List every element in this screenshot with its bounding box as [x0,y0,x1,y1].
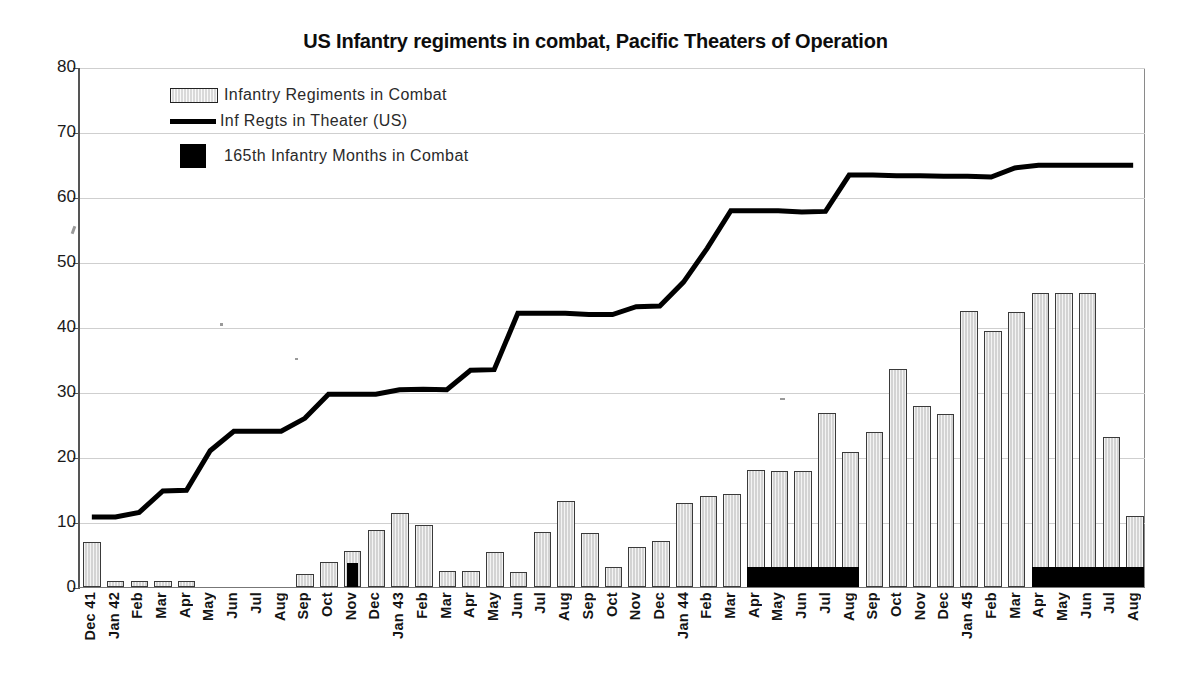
y-tick-label: 20 [30,447,76,467]
x-tick-label: Jun [793,592,809,619]
x-tick-label: Feb [129,592,145,619]
chart-legend: Infantry Regiments in Combat Inf Regts i… [170,82,469,169]
x-tick-label: Jan 43 [390,592,406,639]
x-tick-label: Jan 45 [959,592,975,639]
x-tick-label: Oct [604,592,620,617]
x-tick-label: Sep [864,592,880,620]
x-tick-label: Jul [1101,592,1117,614]
bar-swatch-icon [170,88,218,103]
x-tick-label: Aug [1125,592,1141,621]
x-tick-label: Jun [509,592,525,619]
inf-regts-in-theater-line [92,165,1133,517]
x-tick-label: Jan 44 [675,592,691,639]
x-tick-label: Nov [912,592,928,620]
x-tick-label: Aug [556,592,572,621]
line-swatch-icon [170,119,216,124]
x-tick-label: Sep [295,592,311,620]
x-tick-label: Aug [841,592,857,621]
x-tick-label: Jun [224,592,240,619]
x-tick-label: May [769,592,785,621]
x-tick-label: Sep [580,592,596,620]
x-tick-label: Jul [532,592,548,614]
x-tick-label: Dec 41 [82,592,98,641]
y-tick-label: 10 [30,512,76,532]
legend-label: 165th Infantry Months in Combat [224,147,469,165]
legend-item-bars: Infantry Regiments in Combat [170,82,469,108]
x-tick-label: Jul [817,592,833,614]
chart-root: US Infantry regiments in combat, Pacific… [0,0,1191,687]
y-tick-label: 30 [30,382,76,402]
x-tick-label: Dec [651,592,667,620]
x-tick-label: Nov [627,592,643,620]
x-tick-label: May [485,592,501,621]
legend-item-block: 165th Infantry Months in Combat [170,143,469,169]
x-tick-label: Oct [888,592,904,617]
legend-label: Infantry Regiments in Combat [224,86,447,104]
x-tick-label: Apr [746,592,762,618]
x-tick-label: Dec [366,592,382,620]
x-tick-label: Feb [414,592,430,619]
x-axis-labels: Dec 41Jan 42FebMarAprMayJunJulAugSepOctN… [78,592,1145,687]
x-tick-label: Apr [177,592,193,618]
x-tick-label: Mar [153,592,169,619]
x-tick-label: Oct [319,592,335,617]
x-tick-label: Mar [722,592,738,619]
y-tick-label: 40 [30,317,76,337]
legend-item-line: Inf Regts in Theater (US) [170,108,469,134]
x-tick-label: Mar [438,592,454,619]
y-tick-label: 80 [30,57,76,77]
x-tick-label: Feb [983,592,999,619]
x-tick-label: Aug [272,592,288,621]
y-tick-label: 70 [30,122,76,142]
x-tick-label: May [200,592,216,621]
legend-label: Inf Regts in Theater (US) [220,112,408,130]
x-tick-label: Feb [698,592,714,619]
scan-speck [71,226,77,235]
x-tick-label: Jul [248,592,264,614]
y-tick-label: 50 [30,252,76,272]
x-tick-label: Mar [1007,592,1023,619]
x-tick-label: Jun [1078,592,1094,619]
block-swatch-icon [180,144,206,168]
chart-title: US Infantry regiments in combat, Pacific… [0,30,1191,53]
x-tick-label: Apr [461,592,477,618]
y-tick-label: 60 [30,187,76,207]
y-tick-label: 0 [30,577,76,597]
x-tick-label: Nov [343,592,359,620]
x-tick-label: Jan 42 [106,592,122,639]
x-tick-label: May [1054,592,1070,621]
x-tick-label: Dec [935,592,951,620]
x-tick-label: Apr [1030,592,1046,618]
